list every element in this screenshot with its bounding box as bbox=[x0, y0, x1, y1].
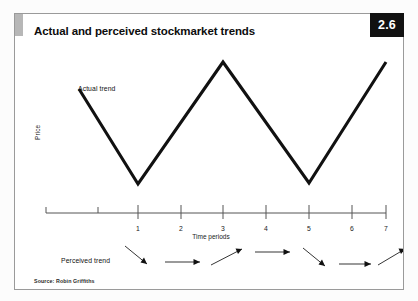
x-tick-label-2: 2 bbox=[179, 225, 183, 232]
perceived-trend-arrow-group bbox=[125, 246, 403, 267]
x-tick-label-3: 3 bbox=[221, 225, 225, 232]
x-tick-label-5: 5 bbox=[307, 225, 311, 232]
chart-svg bbox=[15, 14, 403, 289]
perceived-arrow-up-1 bbox=[211, 249, 242, 266]
perceived-arrow-down-2 bbox=[303, 248, 325, 266]
actual-trend-annotation: Actual trend bbox=[78, 85, 115, 92]
actual-trend-line bbox=[79, 62, 386, 184]
perceived-arrow-right-2 bbox=[255, 249, 290, 255]
x-tick-label-7: 7 bbox=[384, 225, 388, 232]
figure-source: Source: Robin Griffiths bbox=[34, 278, 95, 284]
perceived-arrow-right-3 bbox=[339, 261, 371, 267]
chart-plot-area: Price Actual trend Time periods 1 2 3 4 … bbox=[15, 14, 403, 289]
perceived-arrow-right-1 bbox=[165, 259, 200, 265]
figure-box: 2.6 Actual and perceived stockmarket tre… bbox=[14, 13, 404, 290]
x-tick-label-6: 6 bbox=[350, 225, 354, 232]
perceived-arrow-up-2 bbox=[378, 249, 403, 266]
perceived-arrow-down-1 bbox=[125, 246, 147, 264]
y-axis-label: Price bbox=[34, 125, 41, 140]
x-axis-label: Time periods bbox=[192, 233, 229, 240]
x-tick-label-4: 4 bbox=[264, 225, 268, 232]
perceived-trend-annotation: Perceived trend bbox=[61, 257, 110, 264]
x-tick-label-1: 1 bbox=[136, 225, 140, 232]
page-canvas: 2.6 Actual and perceived stockmarket tre… bbox=[0, 0, 418, 301]
